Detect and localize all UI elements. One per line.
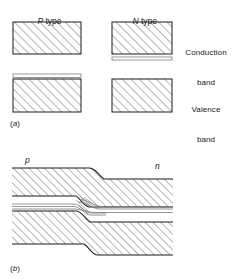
n-valence-band-box bbox=[112, 79, 172, 112]
donor-level-line bbox=[112, 57, 172, 60]
panel-a-tag: (a) bbox=[10, 119, 20, 128]
p-type-suffix: type bbox=[43, 16, 61, 26]
junction-conduction-band bbox=[12, 168, 173, 207]
valence-band-label: Valence band bbox=[178, 85, 234, 165]
panel-b-tag: (b) bbox=[10, 264, 20, 273]
n-type-column-header: N type bbox=[123, 6, 157, 36]
conduction-band-label-line1: Conduction bbox=[178, 48, 234, 58]
junction-valence-band bbox=[12, 211, 173, 255]
valence-band-label-line2: band bbox=[178, 135, 234, 145]
valence-band-label-line1: Valence bbox=[178, 105, 234, 115]
n-type-suffix: type bbox=[139, 16, 157, 26]
p-valence-band-box bbox=[13, 79, 81, 112]
panel-b-tag-letter: b bbox=[13, 264, 17, 273]
n-region-label: n bbox=[155, 161, 160, 171]
p-type-column-header: P type bbox=[28, 6, 62, 36]
p-region-label: p bbox=[25, 155, 30, 165]
figure-container: P type N type Conduction band Valence ba… bbox=[0, 0, 237, 279]
panel-a-tag-letter: a bbox=[13, 119, 17, 128]
acceptor-level-line bbox=[13, 74, 81, 78]
